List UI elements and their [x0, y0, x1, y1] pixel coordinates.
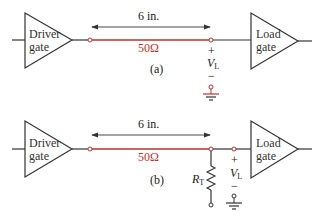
impedance-label-b: 50Ω: [138, 150, 159, 164]
diagram: Driver gate 6 in. 50Ω (a) Load gate + VL…: [0, 0, 320, 218]
driver-gate-a: Driver gate: [12, 13, 88, 68]
caption-b: (b): [150, 173, 164, 187]
ground-icon-b: [226, 194, 242, 209]
impedance-label-a: 50Ω: [138, 41, 159, 55]
node-load-a: [209, 38, 213, 42]
length-label-a: 6 in.: [138, 9, 159, 23]
panel-a: Driver gate 6 in. 50Ω (a) Load gate + VL…: [12, 9, 312, 100]
load-label-line2: gate: [256, 149, 276, 163]
caption-a: (a): [150, 62, 163, 76]
driver-label-line2: gate: [29, 40, 49, 54]
node-source-b: [88, 147, 92, 151]
ground-icon-a: [203, 85, 219, 100]
node-junction-b: [209, 147, 213, 151]
resistor-label-rt: RT: [191, 172, 204, 187]
load-gate-b: Load gate: [251, 121, 312, 178]
resistor-icon-rt: [207, 151, 215, 207]
load-label-line1: Load: [256, 27, 281, 41]
load-gate-a: Load gate: [251, 13, 312, 69]
driver-gate-b: Driver gate: [12, 121, 88, 177]
driver-label-line1: Driver: [29, 27, 60, 41]
node-source-a: [88, 38, 92, 42]
driver-label-line2: gate: [29, 149, 49, 163]
vl-minus-b: −: [231, 179, 238, 193]
vl-plus-b: +: [231, 153, 238, 167]
length-label-b: 6 in.: [138, 117, 159, 131]
node-load-b: [232, 147, 236, 151]
vl-minus-a: −: [208, 69, 215, 83]
panel-b: Driver gate 6 in. 50Ω (b) RT Load gate: [12, 117, 312, 209]
load-label-line1: Load: [256, 136, 281, 150]
driver-label-line1: Driver: [29, 136, 60, 150]
load-label-line2: gate: [256, 40, 276, 54]
